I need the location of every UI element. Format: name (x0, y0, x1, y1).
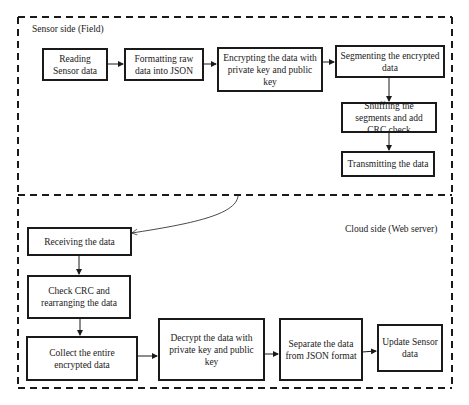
step-encrypting: Encrypting the data with private key and… (217, 47, 323, 92)
step-transmitting: Transmitting the data (341, 151, 435, 177)
step-reading-sensor-data: Reading Sensor data (42, 48, 108, 81)
step-segmenting: Segmenting the encrypted data (335, 45, 445, 78)
step-shuffling: Shuffling the segments and add CRC check (341, 102, 437, 133)
step-formatting-json: Formatting raw data into JSON (124, 48, 204, 81)
step-check-crc: Check CRC and rearranging the data (27, 275, 131, 319)
sensor-side-label: Sensor side (Field) (32, 24, 104, 34)
step-decrypt: Decrypt the data with private key and pu… (158, 318, 265, 381)
cloud-side-label: Cloud side (Web server) (345, 224, 437, 234)
step-collect-encrypted: Collect the entire encrypted data (26, 336, 138, 381)
step-separate-json: Separate the data from JSON format (279, 318, 363, 381)
step-update-sensor-data: Update Sensor data (377, 324, 443, 372)
step-receiving: Receiving the data (27, 227, 132, 256)
